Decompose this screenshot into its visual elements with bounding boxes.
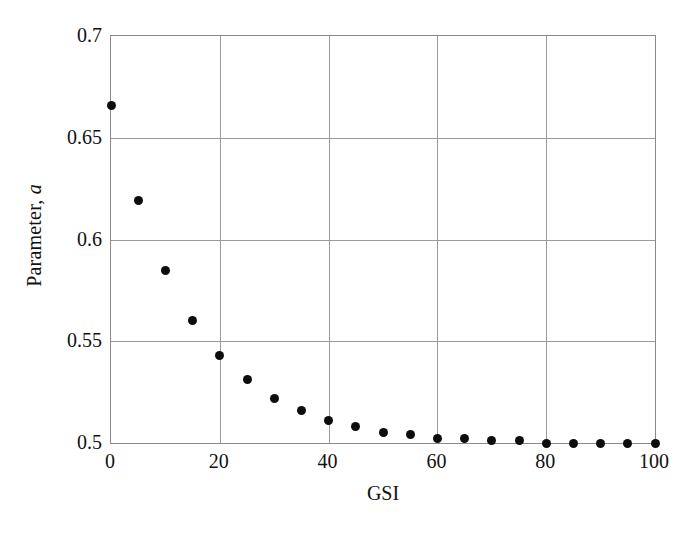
data-point — [324, 416, 333, 425]
data-point — [215, 351, 224, 360]
x-axis-tick-label: 80 — [505, 450, 585, 473]
data-point — [515, 436, 524, 445]
data-point — [596, 439, 605, 448]
data-point — [351, 422, 360, 431]
data-point — [406, 430, 415, 439]
data-point — [433, 434, 442, 443]
data-point — [270, 394, 279, 403]
x-axis-tick-label: 20 — [179, 450, 259, 473]
x-axis-tick-label: 60 — [396, 450, 476, 473]
x-axis-tick-labels: 020406080100 — [110, 450, 656, 480]
gridline-horizontal — [111, 138, 655, 139]
gridline-horizontal — [111, 240, 655, 241]
data-point — [188, 316, 197, 325]
y-axis-tick-labels: 0.50.550.60.650.7 — [0, 35, 110, 444]
y-axis-tick-label: 0.7 — [10, 24, 110, 47]
y-axis-tick-label: 0.6 — [10, 227, 110, 250]
x-axis-tick-label: 0 — [70, 450, 150, 473]
data-point — [107, 101, 116, 110]
chart-figure: Parameter, a 0.50.550.60.650.7 020406080… — [0, 0, 699, 536]
data-point — [297, 406, 306, 415]
x-axis-tick-label: 40 — [288, 450, 368, 473]
data-point — [134, 196, 143, 205]
gridline-horizontal — [111, 341, 655, 342]
data-point — [542, 439, 551, 448]
data-point — [243, 375, 252, 384]
data-point — [460, 434, 469, 443]
data-point — [651, 439, 660, 448]
x-axis-tick-label: 100 — [614, 450, 694, 473]
x-axis-label: GSI — [110, 482, 656, 505]
y-axis-tick-label: 0.65 — [10, 125, 110, 148]
y-axis-tick-label: 0.55 — [10, 329, 110, 352]
data-point — [161, 266, 170, 275]
data-point — [379, 428, 388, 437]
data-point — [623, 439, 632, 448]
plot-area — [110, 35, 656, 444]
data-point — [569, 439, 578, 448]
data-point — [487, 436, 496, 445]
